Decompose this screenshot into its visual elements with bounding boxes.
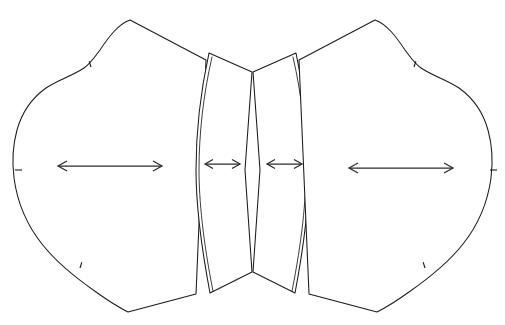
diagram-canvas	[0, 0, 505, 325]
center-left-gore-outline	[196, 53, 252, 293]
pattern-layout-svg	[0, 0, 505, 325]
pattern-piece-center-left-gore[interactable]	[196, 53, 252, 293]
